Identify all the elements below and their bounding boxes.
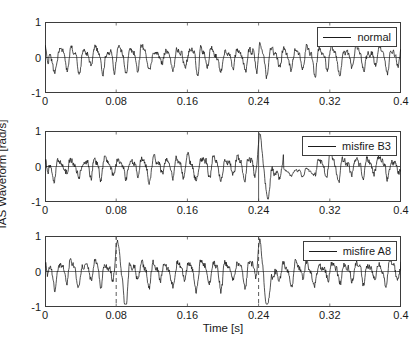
xtick-label: 0.32 — [319, 96, 340, 107]
ytick-label: -1 — [31, 88, 41, 99]
legend-line-icon — [308, 146, 336, 147]
xtick-label: 0.4 — [393, 205, 408, 216]
ias-waveform-figure: 1 0 -1 0 0.08 0.16 0.24 0.32 0.4 normal … — [0, 0, 416, 348]
xtick-label: 0.4 — [393, 310, 408, 321]
xtick-label: 0 — [42, 205, 48, 216]
ytick-label: 0 — [35, 266, 41, 277]
legend-line-icon — [323, 37, 351, 38]
xtick-label: 0.08 — [105, 310, 126, 321]
legend-misfire-a8: misfire A8 — [303, 241, 397, 261]
legend-label: normal — [357, 32, 391, 43]
legend-label: misfire A8 — [343, 246, 391, 257]
x-axis-label: Time [s] — [45, 322, 401, 334]
xtick-label: 0 — [42, 310, 48, 321]
xtick-label: 0 — [42, 96, 48, 107]
xtick-label: 0.08 — [105, 96, 126, 107]
xtick-label: 0.16 — [177, 310, 198, 321]
ytick-label: 0 — [35, 161, 41, 172]
xtick-label: 0.32 — [319, 205, 340, 216]
ytick-label: -1 — [31, 302, 41, 313]
legend-line-icon — [309, 251, 337, 252]
xtick-label: 0.4 — [393, 96, 408, 107]
legend-label: misfire B3 — [342, 141, 391, 152]
xtick-label: 0.16 — [177, 205, 198, 216]
ytick-label: -1 — [31, 197, 41, 208]
xtick-label: 0.16 — [177, 96, 198, 107]
ytick-label: 1 — [35, 231, 41, 242]
y-axis-label: IAS Waveform [rad/s] — [0, 99, 8, 249]
waveform-trace — [45, 42, 401, 78]
legend-normal: normal — [317, 27, 397, 47]
xtick-label: 0.24 — [248, 96, 269, 107]
legend-misfire-b3: misfire B3 — [302, 136, 397, 156]
xtick-label: 0.24 — [248, 310, 269, 321]
xtick-label: 0.24 — [248, 205, 269, 216]
xtick-label: 0.32 — [319, 310, 340, 321]
xtick-label: 0.08 — [105, 205, 126, 216]
panel-misfire-b3: 1 0 -1 0 0.08 0.16 0.24 0.32 0.4 misfire… — [45, 131, 401, 202]
panel-misfire-a8: 1 0 -1 0 0.08 0.16 0.24 0.32 0.4 misfire… — [45, 236, 401, 307]
ytick-label: 1 — [35, 126, 41, 137]
ytick-label: 1 — [35, 17, 41, 28]
ytick-label: 0 — [35, 52, 41, 63]
panel-normal: 1 0 -1 0 0.08 0.16 0.24 0.32 0.4 normal — [45, 22, 401, 93]
